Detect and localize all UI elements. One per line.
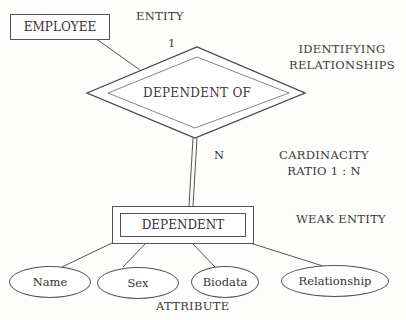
employee-entity-label: EMPLOYEE xyxy=(24,20,96,34)
attribute-relationship: Relationship xyxy=(281,265,389,297)
entity-annotation: ENTITY xyxy=(136,9,184,23)
attribute-biodata-label: Biodata xyxy=(203,275,248,289)
cardinality-one: 1 xyxy=(168,36,176,50)
weak-entity-inner-border: DEPENDENT xyxy=(120,213,246,237)
attribute-relationship-label: Relationship xyxy=(299,274,372,288)
attribute-annotation: ATTRIBUTE xyxy=(156,299,229,313)
attribute-name: Name xyxy=(9,266,91,298)
attribute-sex: Sex xyxy=(97,267,179,299)
weak-entity-annotation: WEAK ENTITY xyxy=(296,212,386,226)
relationship-label: DEPENDENT OF xyxy=(143,86,251,100)
identifying-annotation-2: RELATIONSHIPS xyxy=(286,58,398,72)
cardinality-annotation-1: CARDINACITY xyxy=(268,148,380,162)
identifying-annotation-1: IDENTIFYING xyxy=(286,42,398,56)
cardinality-annotation-2: RATIO 1 : N xyxy=(268,164,380,178)
employee-entity: EMPLOYEE xyxy=(10,14,110,40)
dependent-weak-entity: DEPENDENT xyxy=(112,206,254,244)
attribute-name-label: Name xyxy=(33,275,68,289)
cardinality-many: N xyxy=(214,148,224,162)
attribute-biodata: Biodata xyxy=(191,266,259,298)
dependent-entity-label: DEPENDENT xyxy=(142,218,225,232)
attribute-sex-label: Sex xyxy=(127,276,148,290)
